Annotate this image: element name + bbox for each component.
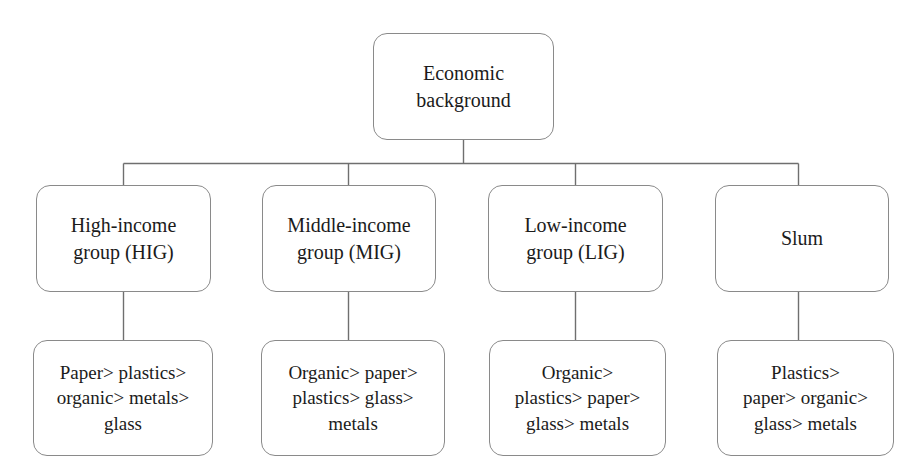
node-low-income-group-ranking: Organic> plastics> paper> glass> metals bbox=[489, 340, 666, 456]
node-low-income-group-ranking-label: Organic> plastics> paper> glass> metals bbox=[507, 360, 648, 435]
node-low-income-group-label: Low-income group (LIG) bbox=[516, 212, 634, 265]
node-high-income-group-label: High-income group (HIG) bbox=[63, 212, 185, 265]
economic-background-diagram: Economic background High-income group (H… bbox=[0, 0, 921, 472]
node-slum-ranking-label: Plastics> paper> organic> glass> metals bbox=[735, 360, 876, 435]
node-high-income-group-ranking: Paper> plastics> organic> metals> glass bbox=[33, 340, 213, 456]
node-middle-income-group-ranking-label: Organic> paper> plastics> glass> metals bbox=[280, 360, 425, 435]
node-middle-income-group-ranking: Organic> paper> plastics> glass> metals bbox=[261, 340, 445, 456]
node-slum-label: Slum bbox=[773, 225, 831, 251]
node-middle-income-group-label: Middle-income group (MIG) bbox=[279, 212, 418, 265]
node-high-income-group: High-income group (HIG) bbox=[36, 185, 211, 292]
node-slum: Slum bbox=[715, 185, 889, 292]
node-economic-background-label: Economic background bbox=[408, 60, 518, 113]
node-middle-income-group: Middle-income group (MIG) bbox=[262, 185, 436, 292]
node-slum-ranking: Plastics> paper> organic> glass> metals bbox=[717, 340, 894, 456]
node-low-income-group: Low-income group (LIG) bbox=[488, 185, 663, 292]
node-economic-background: Economic background bbox=[373, 33, 554, 140]
node-high-income-group-ranking-label: Paper> plastics> organic> metals> glass bbox=[49, 360, 197, 435]
